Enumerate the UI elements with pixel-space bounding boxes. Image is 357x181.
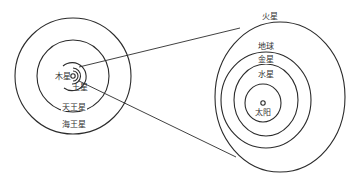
inner-system-marker: [71, 74, 75, 78]
sun-label: 太阳: [255, 107, 271, 117]
saturn-label: 土星: [72, 82, 88, 92]
mars-label: 火星: [262, 12, 278, 21]
neptune-orbit: [15, 18, 131, 134]
venus-label: 金星: [258, 54, 274, 64]
uranus-orbit: [37, 40, 109, 112]
zoom-line-lower: [79, 81, 236, 157]
solar-system-diagram: 木星 土星 天王星 海王星 火星 地球 金星 水星 太阳: [0, 0, 357, 181]
inner-planets-system: 火星 地球 金星 水星 太阳: [215, 11, 345, 172]
jupiter-label: 木星: [55, 71, 71, 81]
neptune-label: 海王星: [62, 119, 86, 129]
outer-planets-system: 木星 土星 天王星 海王星: [15, 18, 131, 134]
earth-label: 地球: [258, 41, 274, 51]
zoom-line-upper: [79, 28, 240, 67]
sun-marker: [261, 101, 265, 105]
mercury-label: 水星: [258, 69, 274, 79]
uranus-label: 天王星: [62, 103, 86, 112]
